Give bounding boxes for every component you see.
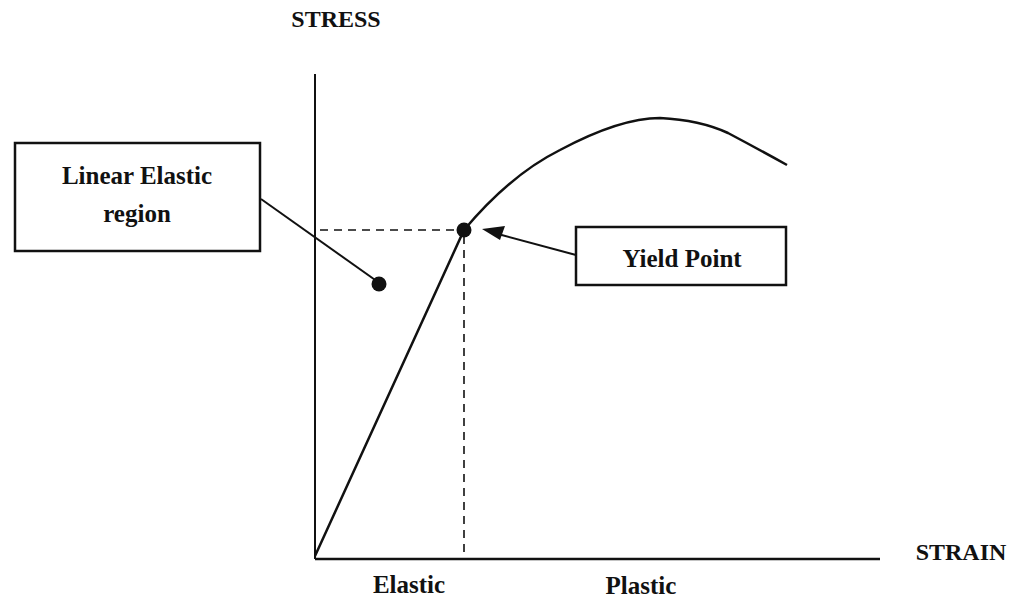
linear-elastic-leader <box>261 199 378 282</box>
linear-elastic-marker <box>372 277 387 292</box>
region-label-plastic: Plastic <box>606 572 677 599</box>
yield-point-arrow-shaft <box>498 234 576 255</box>
stress-strain-diagram: STRESS STRAIN Linear Elastic region Yiel… <box>0 0 1025 615</box>
yield-point-callout-label: Yield Point <box>622 245 742 272</box>
region-label-elastic: Elastic <box>373 571 445 598</box>
stress-strain-curve <box>315 118 787 556</box>
linear-elastic-callout-line2: region <box>103 200 171 227</box>
linear-elastic-callout-line1: Linear Elastic <box>62 162 212 189</box>
linear-elastic-callout-box <box>15 143 260 251</box>
yield-point-arrowhead-icon <box>482 226 505 240</box>
yield-point-marker <box>457 223 472 238</box>
y-axis-label: STRESS <box>291 6 380 32</box>
x-axis-label: STRAIN <box>916 539 1007 565</box>
